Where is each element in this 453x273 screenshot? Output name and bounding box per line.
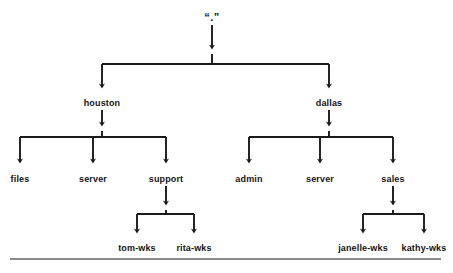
- node-label-sales: sales: [381, 174, 404, 185]
- node-label-files: files: [11, 174, 30, 185]
- node-label-dallas-server: server: [306, 174, 334, 185]
- node-label-support: support: [149, 174, 184, 185]
- node-label-rita-wks: rita-wks: [176, 243, 211, 254]
- node-label-janelle-wks: janelle-wks: [338, 243, 388, 254]
- node-label-admin: admin: [235, 174, 262, 185]
- node-label-houston-server: server: [79, 174, 107, 185]
- node-label-kathy-wks: kathy-wks: [402, 243, 447, 254]
- node-label-tom-wks: tom-wks: [118, 243, 156, 254]
- node-label-dallas: dallas: [316, 98, 342, 109]
- node-label-root: “.”: [204, 12, 220, 23]
- domain-hierarchy-diagram: “.” houston dallas files server support …: [0, 0, 453, 273]
- tree-connector-graphic: [0, 0, 453, 273]
- node-label-houston: houston: [84, 98, 121, 109]
